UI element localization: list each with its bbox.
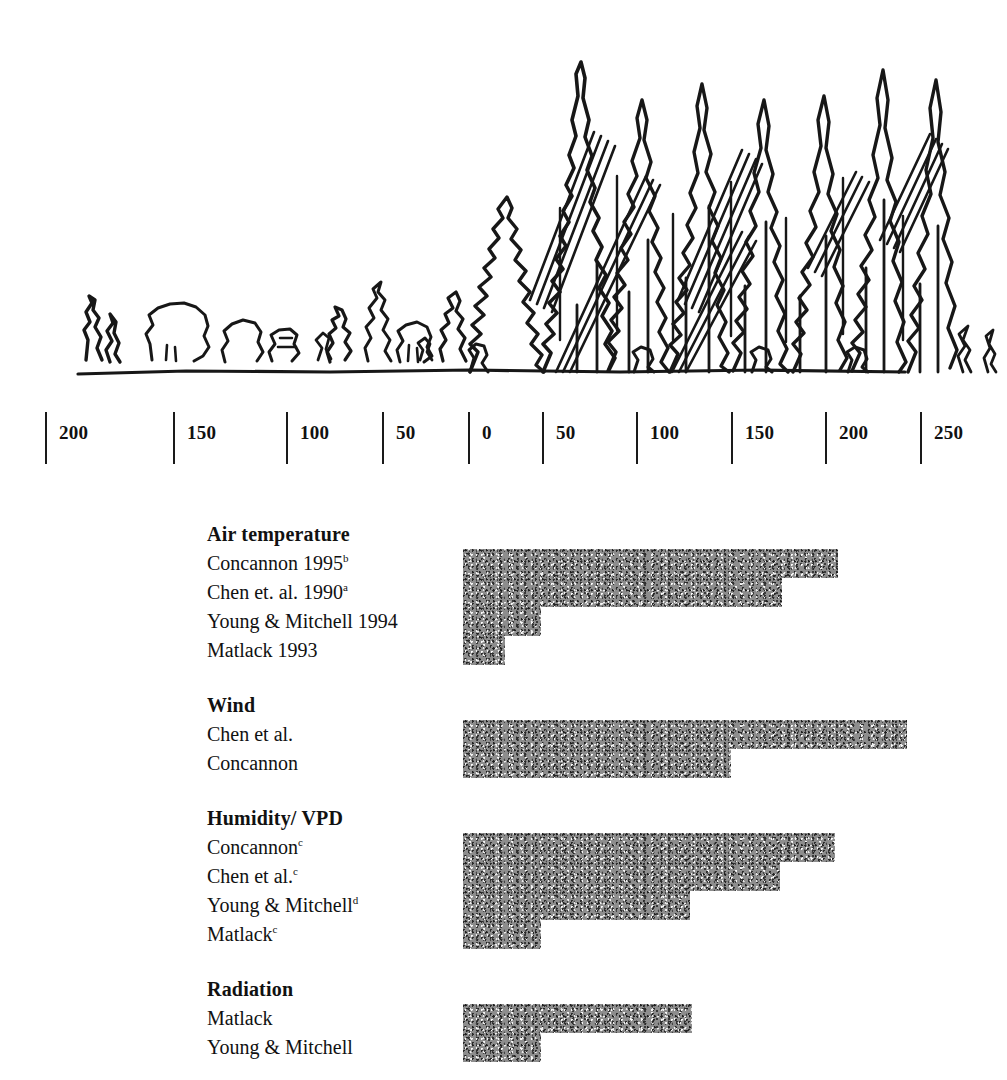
ground-line xyxy=(78,370,905,374)
edge-influence-bar xyxy=(463,636,505,665)
edge-influence-bar xyxy=(463,891,690,920)
study-label-text: Young & Mitchell xyxy=(207,1036,353,1058)
edge-influence-bar xyxy=(463,1004,692,1033)
study-label: Chen et al.c xyxy=(207,862,457,891)
axis-tick-7 xyxy=(731,412,733,464)
study-label: Young & Mitchelld xyxy=(207,891,457,920)
axis-tick-label-0: 200 xyxy=(59,422,88,444)
bar-group-title: Air temperature xyxy=(207,520,457,549)
study-label: Matlackc xyxy=(207,920,457,949)
microclimate-edge-influence-figure: 20015010050050100150200250 Air temperatu… xyxy=(0,0,1007,1080)
axis-tick-label-3: 50 xyxy=(396,422,415,444)
axis-tick-label-5: 50 xyxy=(556,422,575,444)
axis-tick-label-4: 0 xyxy=(482,422,492,444)
bar-group-title: Radiation xyxy=(207,975,457,1004)
bar-group-title: Wind xyxy=(207,691,457,720)
study-label-text: Concannon xyxy=(207,836,298,858)
axis-tick-9 xyxy=(920,412,922,464)
axis-tick-1 xyxy=(173,412,175,464)
axis-tick-label-7: 150 xyxy=(745,422,774,444)
study-label-superscript: d xyxy=(353,894,359,906)
edge-influence-bar xyxy=(463,920,541,949)
study-label: Young & Mitchell xyxy=(207,1033,457,1062)
bar-group-title: Humidity/ VPD xyxy=(207,804,457,833)
study-label-text: Young & Mitchell xyxy=(207,894,353,916)
study-label-superscript: c xyxy=(273,923,278,935)
distance-axis: 20015010050050100150200250 xyxy=(0,412,1007,482)
edge-influence-bar xyxy=(463,549,838,578)
edge-influence-bar xyxy=(463,578,782,607)
study-label-superscript: a xyxy=(343,581,348,593)
study-label-text: Young & Mitchell 1994 xyxy=(207,610,398,632)
study-label: Concannon xyxy=(207,749,457,778)
bar-group: WindChen et al.Concannon xyxy=(0,691,1007,778)
study-label-text: Chen et al. xyxy=(207,723,293,745)
study-label: Young & Mitchell 1994 xyxy=(207,607,457,636)
bar-group: RadiationMatlackYoung & Mitchell xyxy=(0,975,1007,1062)
bar-groups: Air temperatureConcannon 1995bChen et. a… xyxy=(0,520,1007,1062)
study-label: Concannon 1995b xyxy=(207,549,457,578)
axis-tick-label-1: 150 xyxy=(187,422,216,444)
study-label-superscript: b xyxy=(343,552,349,564)
study-label-superscript: c xyxy=(293,865,298,877)
bar-group-labels: WindChen et al.Concannon xyxy=(207,691,457,778)
study-label: Concannonc xyxy=(207,833,457,862)
axis-tick-2 xyxy=(286,412,288,464)
axis-tick-6 xyxy=(636,412,638,464)
figure-caption xyxy=(0,1068,1007,1080)
edge-influence-bar xyxy=(463,720,907,749)
study-label-text: Chen et al. xyxy=(207,865,293,887)
axis-tick-0 xyxy=(45,412,47,464)
edge-influence-bar xyxy=(463,862,780,891)
edge-influence-bar xyxy=(463,833,835,862)
study-label-text: Matlack xyxy=(207,923,273,945)
study-label: Chen et. al. 1990a xyxy=(207,578,457,607)
axis-tick-8 xyxy=(825,412,827,464)
bar-group: Air temperatureConcannon 1995bChen et. a… xyxy=(0,520,1007,665)
axis-tick-label-8: 200 xyxy=(839,422,868,444)
axis-tick-label-9: 250 xyxy=(934,422,963,444)
study-label-text: Matlack xyxy=(207,1007,273,1029)
axis-tick-5 xyxy=(542,412,544,464)
axis-tick-3 xyxy=(382,412,384,464)
study-label: Chen et al. xyxy=(207,720,457,749)
bar-group-labels: Air temperatureConcannon 1995bChen et. a… xyxy=(207,520,457,665)
study-label: Matlack xyxy=(207,1004,457,1033)
axis-tick-label-6: 100 xyxy=(650,422,679,444)
study-label-text: Matlack 1993 xyxy=(207,639,318,661)
forest-profile-svg xyxy=(0,0,1007,395)
edge-influence-bar xyxy=(463,607,541,636)
axis-tick-label-2: 100 xyxy=(300,422,329,444)
study-label-text: Concannon xyxy=(207,752,298,774)
bar-group: Humidity/ VPDConcannoncChen et al.cYoung… xyxy=(0,804,1007,949)
study-label-text: Concannon 1995 xyxy=(207,552,343,574)
study-label: Matlack 1993 xyxy=(207,636,457,665)
study-label-superscript: c xyxy=(298,836,303,848)
edge-influence-bar xyxy=(463,749,731,778)
axis-tick-4 xyxy=(468,412,470,464)
bar-group-labels: RadiationMatlackYoung & Mitchell xyxy=(207,975,457,1062)
edge-influence-bar xyxy=(463,1033,541,1062)
forest-profile-drawing xyxy=(0,0,1007,395)
bar-group-labels: Humidity/ VPDConcannoncChen et al.cYoung… xyxy=(207,804,457,949)
study-label-text: Chen et. al. 1990 xyxy=(207,581,343,603)
